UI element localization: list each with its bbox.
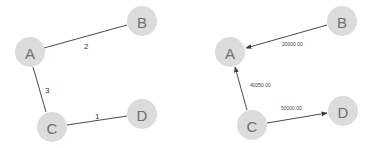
node-label-d: D: [338, 104, 349, 121]
node-c[interactable]: C: [37, 112, 67, 142]
edge-c-a: [235, 67, 247, 110]
right-graph: 20000.00 40050.00 50000.00 A B C D: [215, 6, 358, 140]
node-label-a: A: [25, 45, 35, 62]
node-d[interactable]: D: [328, 96, 358, 126]
node-label-d: D: [137, 107, 148, 124]
edge-label-c-d: 1: [95, 112, 100, 121]
node-a[interactable]: A: [15, 37, 45, 67]
node-label-a: A: [225, 45, 235, 62]
graph-diagrams: 2 3 1 A B C D 20000.00 40050.00 50000.00…: [0, 0, 374, 148]
node-a[interactable]: A: [215, 37, 245, 67]
node-label-c: C: [47, 120, 58, 137]
edge-label-a-b: 2: [84, 42, 89, 51]
node-b[interactable]: B: [327, 6, 357, 36]
edge-c-d: [267, 113, 327, 123]
edge-label-c-a: 40050.00: [250, 82, 271, 88]
edge-label-a-c: 3: [45, 86, 50, 95]
node-d[interactable]: D: [127, 99, 157, 129]
node-label-b: B: [337, 14, 347, 31]
node-label-b: B: [137, 14, 147, 31]
node-b[interactable]: B: [127, 6, 157, 36]
node-c[interactable]: C: [237, 110, 267, 140]
node-label-c: C: [247, 118, 258, 135]
edge-label-b-a: 20000.00: [282, 41, 303, 47]
edge-label-c-d: 50000.00: [281, 105, 302, 111]
left-graph: 2 3 1 A B C D: [15, 6, 157, 142]
